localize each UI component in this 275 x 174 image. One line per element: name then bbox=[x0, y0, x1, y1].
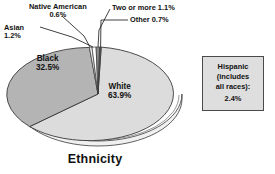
slice-label-native-american-value: 0.6% bbox=[29, 11, 87, 19]
ethnicity-pie-chart: Native American 0.6% Asian 1.2% Two or m… bbox=[0, 0, 275, 174]
slice-label-asian-value: 1.2% bbox=[4, 32, 24, 40]
slice-label-white: White 63.9% bbox=[108, 83, 131, 100]
slice-label-black: Black 32.5% bbox=[36, 55, 59, 72]
slice-label-other: Other 0.7% bbox=[130, 16, 169, 24]
chart-title: Ethnicity bbox=[0, 152, 190, 166]
slice-label-white-value: 63.9% bbox=[108, 92, 131, 101]
leader-line-native-american bbox=[62, 16, 90, 47]
hispanic-callout-line1: Hispanic bbox=[205, 62, 261, 72]
slice-label-native-american: Native American 0.6% bbox=[29, 3, 87, 19]
slice-label-asian: Asian 1.2% bbox=[4, 24, 24, 40]
slice-label-two-or-more: Two or more 1.1% bbox=[112, 4, 175, 12]
slice-label-black-value: 32.5% bbox=[36, 64, 59, 73]
hispanic-callout-line2: (includes bbox=[205, 72, 261, 82]
hispanic-callout-value: 2.4% bbox=[205, 94, 261, 104]
leader-line-other bbox=[101, 20, 128, 47]
hispanic-callout-box: Hispanic (includes all races): 2.4% bbox=[202, 56, 264, 111]
hispanic-callout-line3: all races): bbox=[205, 82, 261, 92]
leader-line-asian bbox=[40, 27, 93, 47]
leader-line-two-or-more bbox=[98, 9, 110, 47]
